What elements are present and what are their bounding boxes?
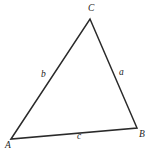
figure-background	[0, 0, 148, 155]
side-label-c: c	[77, 132, 81, 142]
side-label-b: b	[41, 70, 46, 80]
side-label-a: a	[119, 68, 124, 78]
vertex-label-b: B	[139, 130, 145, 140]
vertex-label-c: C	[88, 4, 94, 14]
triangle-outline-svg	[0, 0, 148, 155]
vertex-label-a: A	[5, 141, 11, 151]
triangle-figure: C A B a b c	[0, 0, 148, 155]
